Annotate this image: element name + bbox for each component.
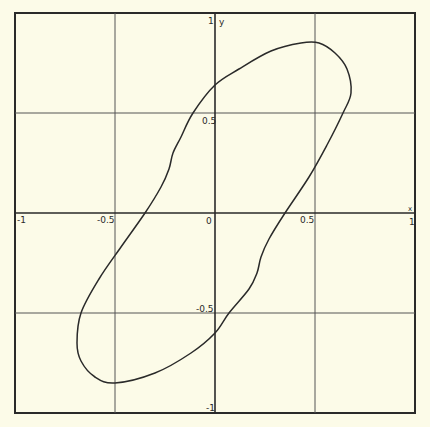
chart: -1 -0.5 0 0.5 1 x 1 y 0.5 -0.5 -1 [0, 0, 430, 427]
y-tick-half: 0.5 [202, 116, 216, 126]
x-tick-plus-1: 1 [409, 217, 415, 227]
origin-label: 0 [206, 216, 212, 226]
y-tick-minus-half: -0.5 [196, 304, 214, 314]
y-axis-label: y [219, 17, 225, 27]
y-tick-plus-1: 1 [208, 16, 214, 26]
x-tick-minus-1: -1 [17, 215, 26, 225]
y-tick-minus-1: -1 [206, 403, 215, 413]
x-axis-label: x [408, 205, 412, 213]
x-tick-minus-half: -0.5 [97, 215, 115, 225]
x-tick-half: 0.5 [300, 215, 314, 225]
